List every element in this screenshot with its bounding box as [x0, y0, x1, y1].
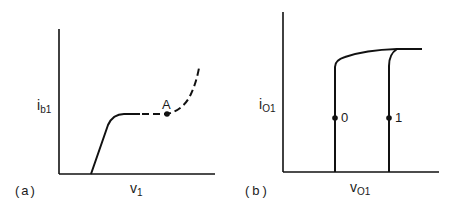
panel-b-x-axis-label: vO1 [350, 180, 370, 197]
y-label-sub: O1 [262, 103, 275, 114]
panel-b-y-axis-label: iO1 [259, 97, 275, 114]
point-1-label: 1 [395, 111, 402, 124]
panel-a-y-axis-label: ib1 [37, 98, 51, 115]
diagram-canvas [0, 0, 457, 211]
x-label-main: v [350, 179, 357, 195]
point-0-marker [332, 115, 338, 121]
panel-a [59, 29, 215, 174]
x-label-sub: 1 [137, 187, 143, 198]
y-label-sub: b1 [40, 104, 51, 115]
panel-a-x-axis-label: v1 [130, 181, 143, 198]
point-0-label: 0 [341, 111, 348, 124]
panel-a-solid-curve [91, 114, 140, 174]
panel-a-caption: (a) [15, 184, 37, 197]
x-label-main: v [130, 180, 137, 196]
x-label-sub: O1 [357, 186, 370, 197]
panel-b [283, 12, 439, 172]
point-a-label: A [162, 98, 171, 111]
point-1-marker [386, 115, 392, 121]
panel-b-caption: (b) [245, 184, 270, 197]
point-a-marker [164, 111, 170, 117]
